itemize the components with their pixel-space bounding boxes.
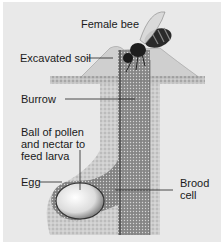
label-brood-cell: Brood cell: [180, 177, 209, 201]
label-burrow: Burrow: [21, 93, 56, 105]
burrow-illustration: [0, 0, 224, 245]
label-excavated-soil: Excavated soil: [20, 52, 91, 64]
label-pollen-ball: Ball of pollen and nectar to feed larva: [21, 126, 85, 162]
label-egg: Egg: [21, 176, 41, 188]
label-female-bee: Female bee: [81, 18, 139, 30]
burrow-shaft: [118, 50, 150, 235]
